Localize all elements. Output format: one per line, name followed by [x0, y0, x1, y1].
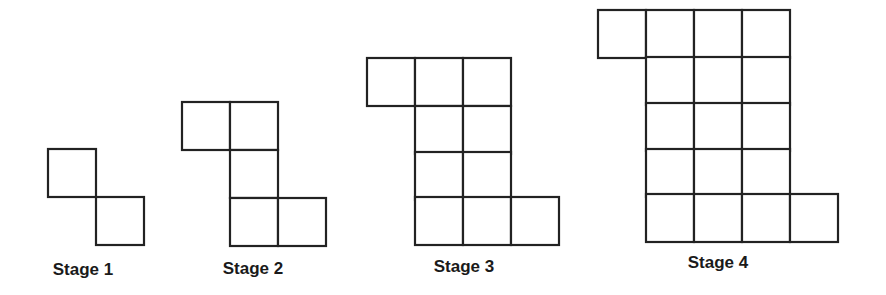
- square-cell: [367, 58, 415, 106]
- stage-1-label: Stage 1: [53, 260, 113, 279]
- square-cell: [742, 103, 790, 151]
- square-cell: [646, 57, 694, 105]
- stage-3-figure: [367, 58, 559, 245]
- square-cell: [694, 149, 742, 197]
- square-cell: [463, 197, 511, 245]
- stage-4-label: Stage 4: [688, 253, 749, 272]
- square-cell: [96, 197, 144, 245]
- square-cell: [230, 150, 278, 198]
- square-cell: [694, 194, 742, 242]
- stage-pattern-diagram: Stage 1 Stage 2 Stage 3 Stage 4: [0, 0, 886, 295]
- square-cell: [415, 197, 463, 245]
- stage-2-figure: [182, 102, 326, 246]
- stage-1-figure: [48, 149, 144, 245]
- square-cell: [463, 58, 511, 106]
- square-cell: [790, 194, 838, 242]
- square-cell: [230, 102, 278, 150]
- square-cell: [415, 106, 463, 154]
- square-cell: [742, 57, 790, 105]
- stage-2-label: Stage 2: [223, 259, 283, 278]
- square-cell: [511, 197, 559, 245]
- square-cell: [646, 10, 694, 58]
- square-cell: [694, 103, 742, 151]
- stage-4-figure: [598, 10, 838, 242]
- square-cell: [463, 152, 511, 200]
- square-cell: [463, 106, 511, 154]
- square-cell: [415, 58, 463, 106]
- square-cell: [694, 57, 742, 105]
- square-cell: [646, 103, 694, 151]
- square-cell: [598, 10, 646, 58]
- square-cell: [230, 198, 278, 246]
- square-cell: [742, 149, 790, 197]
- square-cell: [48, 149, 96, 197]
- square-cell: [694, 10, 742, 58]
- square-cell: [415, 152, 463, 200]
- square-cell: [646, 194, 694, 242]
- square-cell: [182, 102, 230, 150]
- square-cell: [742, 10, 790, 58]
- square-cell: [278, 198, 326, 246]
- square-cell: [742, 194, 790, 242]
- stage-3-label: Stage 3: [434, 257, 494, 276]
- square-cell: [646, 149, 694, 197]
